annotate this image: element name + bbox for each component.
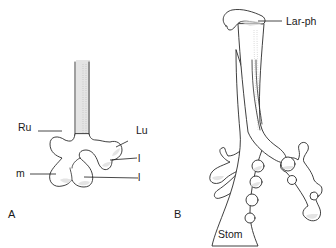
label-right-upper: Ru xyxy=(18,121,32,133)
panel-label-b: B xyxy=(174,208,181,220)
lung-buds-a xyxy=(50,134,122,187)
lung-bud-diagram: Ru Lu l m l A xyxy=(0,0,336,248)
panel-b: Lar-ph Stom B xyxy=(174,9,322,246)
panel-label-a: A xyxy=(8,208,16,220)
right-lung-branches-b xyxy=(280,142,322,220)
label-stomach: Stom xyxy=(218,228,243,240)
label-laryngopharynx: Lar-ph xyxy=(286,15,317,27)
panel-a: Ru Lu l m l A xyxy=(8,60,148,220)
label-left-lower-1: l xyxy=(138,152,140,164)
label-middle: m xyxy=(16,167,25,179)
trachea-a xyxy=(75,60,90,140)
label-left-lower-2: l xyxy=(138,171,140,183)
label-left-upper: Lu xyxy=(136,124,148,136)
